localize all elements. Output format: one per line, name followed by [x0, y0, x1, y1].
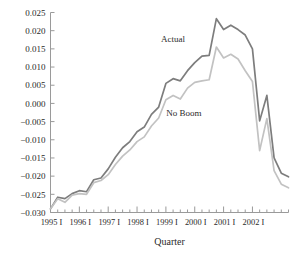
y-tick-label: −0.025 [20, 190, 46, 200]
series-label-actual: Actual [161, 34, 185, 44]
y-tick-label: −0.030 [20, 208, 46, 218]
y-tick-label: −0.020 [20, 171, 46, 181]
y-tick-label: −0.005 [20, 117, 46, 127]
y-tick-label: −0.010 [20, 135, 46, 145]
y-axis-ticks [51, 13, 55, 213]
series-annotations: ActualNo Boom [161, 34, 201, 119]
y-axis-tick-labels: 0.0250.0200.0150.0100.0050.000−0.005−0.0… [20, 8, 46, 218]
y-tick-label: 0.000 [25, 99, 46, 109]
x-axis-tick-labels: 1995 I1996 I1997 I1998 I1999 I2000 I2001… [41, 218, 265, 227]
x-tick-label: 1995 I [41, 218, 63, 227]
x-tick-label: 1999 I [156, 218, 178, 227]
x-axis-ticks [51, 207, 289, 213]
line-chart: 0.0250.0200.0150.0100.0050.000−0.005−0.0… [0, 0, 298, 257]
series-line-no-boom [51, 47, 289, 209]
x-tick-label: 2001 I [214, 218, 236, 227]
series-label-no-boom: No Boom [166, 108, 201, 118]
y-tick-label: −0.015 [20, 153, 46, 163]
chart-container: 0.0250.0200.0150.0100.0050.000−0.005−0.0… [0, 0, 298, 257]
x-tick-label: 1996 I [70, 218, 92, 227]
y-tick-label: 0.010 [25, 62, 46, 72]
x-tick-label: 2002 I [243, 218, 265, 227]
y-tick-label: 0.015 [25, 44, 46, 54]
x-tick-label: 2000 I [185, 218, 207, 227]
y-tick-label: 0.020 [25, 26, 46, 36]
y-tick-label: 0.005 [25, 80, 46, 90]
x-tick-label: 1997 I [98, 218, 120, 227]
y-tick-label: 0.025 [25, 8, 46, 18]
x-axis-title: Quarter [154, 236, 185, 247]
x-tick-label: 1998 I [127, 218, 149, 227]
